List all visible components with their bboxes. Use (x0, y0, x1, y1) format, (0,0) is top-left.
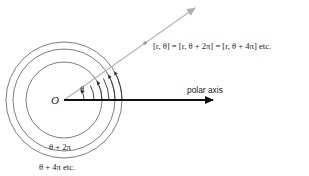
theta-plus-2pi-label: θ + 2π (49, 142, 72, 152)
arc-3 (97, 82, 102, 100)
polar-coordinates-diagram: O θ [r, θ] = [r, θ + 2π] = [r, θ + 4π] e… (0, 0, 309, 176)
angle-arcs (82, 72, 123, 100)
theta-plus-4pi-label: θ + 4π etc. (39, 162, 75, 172)
arc-2 (90, 85, 94, 100)
arc-4 (103, 78, 109, 100)
origin-label: O (51, 94, 59, 106)
arc-6 (115, 72, 122, 100)
polar-axis-label: polar axis (187, 85, 223, 95)
point-marker (143, 41, 147, 45)
coordinate-equation: [r, θ] = [r, θ + 2π] = [r, θ + 4π] etc. (153, 41, 271, 51)
arc-5 (109, 75, 115, 100)
theta-label: θ (80, 85, 84, 94)
